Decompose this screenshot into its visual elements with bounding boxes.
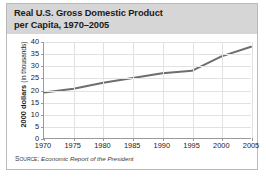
- y-tick-mark: [41, 115, 44, 116]
- x-tick-label: 2005: [243, 142, 259, 149]
- gridline-horizontal: [44, 78, 251, 79]
- gridline-horizontal: [44, 127, 251, 128]
- gridline-horizontal: [44, 42, 251, 43]
- gridline-vertical: [163, 42, 164, 138]
- page-title: Real U.S. Gross Domestic Product per Cap…: [14, 7, 250, 31]
- x-tick-label: 2000: [213, 142, 229, 149]
- gridline-horizontal: [44, 91, 251, 92]
- gridline-vertical: [222, 42, 223, 138]
- source-note: Source: Economic Report of the President: [15, 155, 134, 162]
- source-prefix: Source:: [15, 155, 39, 162]
- y-tick-mark: [41, 127, 44, 128]
- gridline-vertical: [193, 42, 194, 138]
- x-tick-label: 1985: [124, 142, 140, 149]
- gridline-horizontal: [44, 115, 251, 116]
- gridline-horizontal: [44, 54, 251, 55]
- y-tick-label: 20: [31, 87, 39, 94]
- chart-figure: Real U.S. Gross Domestic Product per Cap…: [6, 3, 258, 170]
- x-tick-label: 1975: [64, 142, 80, 149]
- y-tick-label: 30: [31, 63, 39, 70]
- y-tick-label: 40: [31, 38, 39, 45]
- y-tick-label: 10: [31, 111, 39, 118]
- title-band: Real U.S. Gross Domestic Product per Cap…: [7, 4, 257, 34]
- x-axis-ticks: 19701975198019851990199520002005: [43, 142, 259, 154]
- source-title: Economic Report of the President: [41, 155, 134, 162]
- y-tick-mark: [41, 103, 44, 104]
- gridline-vertical: [252, 42, 253, 138]
- x-tick-label: 1970: [35, 142, 51, 149]
- y-axis-ticks: 0510152025303540: [23, 34, 39, 138]
- gridline-horizontal: [44, 103, 251, 104]
- plot-area-wrapper: 2000 dollars (in thousands) 051015202530…: [7, 34, 257, 171]
- title-line-1: Real U.S. Gross Domestic Product: [14, 7, 250, 19]
- plot-box: [43, 42, 251, 139]
- x-tick-label: 1995: [183, 142, 199, 149]
- y-tick-mark: [41, 91, 44, 92]
- title-line-2: per Capita, 1970–2005: [14, 19, 250, 31]
- y-tick-mark: [41, 42, 44, 43]
- y-tick-label: 15: [31, 99, 39, 106]
- gridline-horizontal: [44, 66, 251, 67]
- y-tick-label: 35: [31, 50, 39, 57]
- y-tick-label: 25: [31, 75, 39, 82]
- x-tick-label: 1990: [154, 142, 170, 149]
- gridline-vertical: [133, 42, 134, 138]
- x-tick-label: 1980: [94, 142, 110, 149]
- y-tick-label: 5: [35, 123, 39, 130]
- gridline-vertical: [74, 42, 75, 138]
- y-tick-mark: [41, 54, 44, 55]
- y-tick-mark: [41, 78, 44, 79]
- y-tick-mark: [41, 66, 44, 67]
- gridline-vertical: [103, 42, 104, 138]
